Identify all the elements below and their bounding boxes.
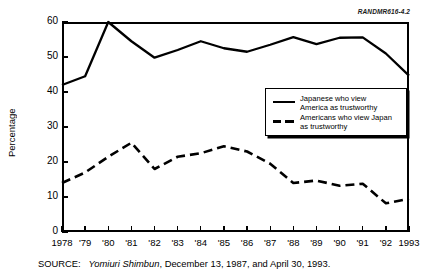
legend-label-line2: America as trustworthy <box>300 103 377 112</box>
x-tick-label: '89 <box>310 237 322 248</box>
x-tick-label: '86 <box>241 237 253 248</box>
series-line-japanese <box>62 22 409 85</box>
x-tick-label: '87 <box>264 237 276 248</box>
source-note: SOURCE: Yomiuri Shimbun, December 13, 19… <box>38 258 330 270</box>
x-tick-label: '83 <box>171 237 183 248</box>
x-tick-label: '84 <box>195 237 207 248</box>
series-line-americans <box>62 143 409 204</box>
y-tick-label: 0 <box>52 225 58 236</box>
y-tick-label: 10 <box>47 190 58 201</box>
legend-dashed-line-icon <box>273 116 295 127</box>
legend-box: Japanese who view America as trustworthy… <box>265 88 407 136</box>
x-tick-label: 1993 <box>398 237 419 248</box>
y-axis-title: Percentage <box>6 78 20 188</box>
x-tick-label: '91 <box>357 237 369 248</box>
y-tick-label: 20 <box>47 155 58 166</box>
legend-item-americans: Americans who view Japan as trustworthy <box>273 113 405 131</box>
x-tick-label: '82 <box>148 237 160 248</box>
legend-item-japanese: Japanese who view America as trustworthy <box>273 94 405 112</box>
x-tick-label: '81 <box>125 237 137 248</box>
x-tick-label: '92 <box>380 237 392 248</box>
figure-container: RANDMR616-4.2 Percentage 0102030405060 1… <box>0 0 432 280</box>
x-tick-label: '90 <box>333 237 345 248</box>
x-tick-label: '79 <box>79 237 91 248</box>
x-tick-label: '85 <box>218 237 230 248</box>
legend-solid-line-icon <box>273 97 295 108</box>
legend-label-line1: Americans who view Japan <box>300 113 392 122</box>
x-tick-label: 1978 <box>51 237 72 248</box>
y-tick-label: 40 <box>47 85 58 96</box>
y-tick-label: 50 <box>47 50 58 61</box>
y-tick-label: 60 <box>47 15 58 26</box>
legend-label-line2: as trustworthy <box>300 122 347 131</box>
y-tick-label: 30 <box>47 120 58 131</box>
legend-label-line1: Japanese who view <box>300 94 366 103</box>
source-publication: Yomiuri Shimbun <box>89 258 160 269</box>
x-tick-label: '88 <box>287 237 299 248</box>
source-label: SOURCE: <box>38 258 81 269</box>
source-details: , December 13, 1987, and April 30, 1993. <box>159 258 330 269</box>
x-tick-label: '80 <box>102 237 114 248</box>
figure-id-label: RANDMR616-4.2 <box>358 8 410 15</box>
legend-item-label: Japanese who view America as trustworthy <box>300 94 377 112</box>
legend-item-label: Americans who view Japan as trustworthy <box>300 113 392 131</box>
